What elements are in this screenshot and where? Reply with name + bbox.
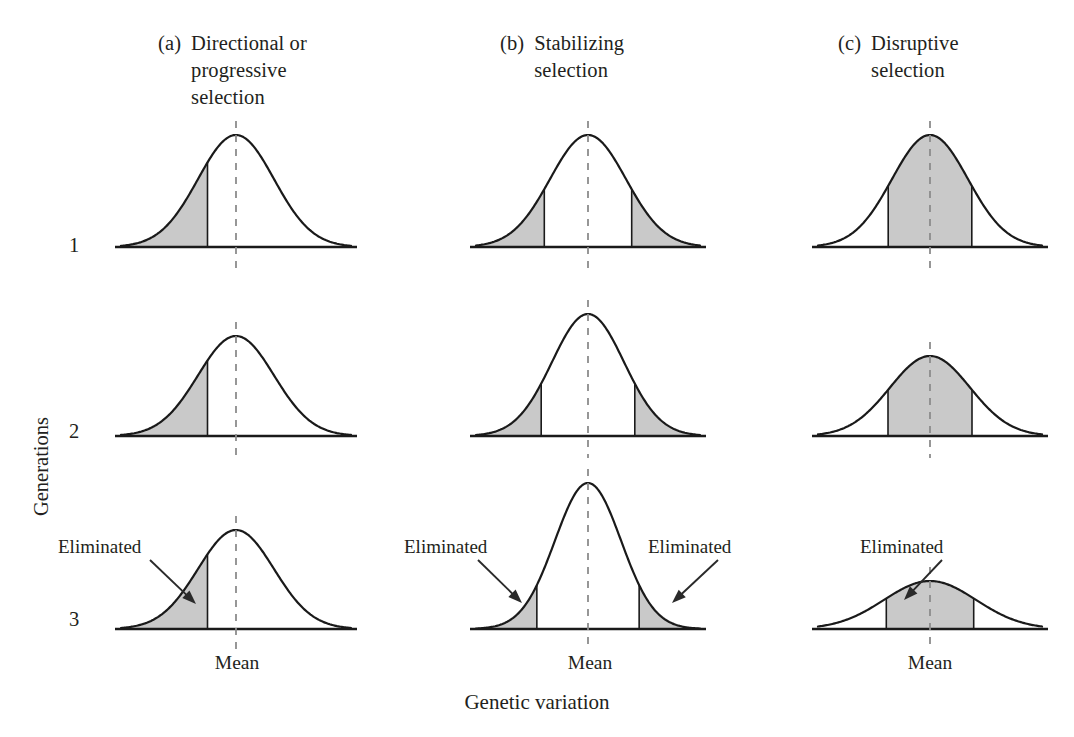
- shaded-eliminated-area: [635, 384, 693, 436]
- shaded-eliminated-area: [130, 554, 208, 629]
- shaded-eliminated-area: [632, 189, 695, 247]
- bell-curve: [818, 581, 1042, 627]
- shaded-eliminated-area: [484, 384, 542, 436]
- mean-label-stabilizing: Mean: [545, 652, 635, 674]
- distribution-panel: [115, 121, 357, 269]
- shaded-eliminated-area: [886, 581, 973, 629]
- shaded-eliminated-area: [486, 585, 537, 629]
- bell-curve: [476, 135, 700, 246]
- distribution-panel: [812, 567, 1048, 651]
- distribution-panel: [812, 121, 1048, 269]
- distribution-panel: [470, 121, 706, 269]
- column-heading-stabilizing-selection: (b) Stabilizing selection: [500, 30, 750, 84]
- shaded-eliminated-area: [130, 162, 208, 247]
- column-tag-c: (c): [838, 30, 861, 57]
- natural-selection-figure: (a) Directional or progressive selection…: [0, 0, 1074, 737]
- column-tag-a: (a): [158, 30, 181, 57]
- eliminated-label-stabilizing-left: Eliminated: [404, 536, 487, 558]
- shaded-eliminated-area: [888, 356, 972, 436]
- eliminated-arrow: [150, 560, 196, 604]
- distribution-panel: [470, 300, 706, 458]
- arrow-head: [508, 590, 522, 604]
- mean-label-disruptive: Mean: [885, 652, 975, 674]
- distribution-panel: [115, 516, 357, 651]
- column-title-b: Stabilizing selection: [534, 30, 750, 84]
- column-heading-directional-selection: (a) Directional or progressive selection: [158, 30, 408, 111]
- shaded-eliminated-area: [482, 189, 545, 247]
- distribution-panel: [115, 322, 357, 458]
- generation-number-1: 1: [62, 234, 86, 257]
- bell-curve: [476, 314, 700, 435]
- eliminated-label-disruptive: Eliminated: [860, 536, 943, 558]
- mean-label-directional: Mean: [192, 652, 282, 674]
- arrow-head: [672, 590, 686, 603]
- x-axis-label: Genetic variation: [0, 690, 1074, 715]
- distribution-panel: [470, 469, 706, 651]
- generation-number-2: 2: [62, 420, 86, 443]
- shaded-eliminated-area: [639, 585, 690, 629]
- generation-number-3: 3: [62, 608, 86, 631]
- eliminated-arrow: [478, 560, 522, 603]
- bell-curve: [121, 135, 351, 246]
- column-heading-disruptive-selection: (c) Disruptive selection: [838, 30, 1073, 84]
- distribution-panel: [812, 342, 1048, 458]
- arrow-shaft: [912, 560, 942, 592]
- column-title-a: Directional or progressive selection: [191, 30, 408, 111]
- shaded-eliminated-area: [888, 135, 972, 247]
- bell-curve: [818, 135, 1042, 246]
- arrow-shaft: [150, 560, 188, 596]
- bell-curve: [121, 530, 351, 628]
- bell-curve: [121, 336, 351, 435]
- y-axis-label: Generations: [30, 382, 53, 552]
- bell-curve: [818, 356, 1042, 434]
- shaded-eliminated-area: [130, 361, 208, 436]
- column-tag-b: (b): [500, 30, 524, 57]
- arrow-shaft: [478, 560, 514, 595]
- arrow-head: [182, 591, 196, 604]
- eliminated-label-directional: Eliminated: [58, 536, 141, 558]
- column-title-c: Disruptive selection: [871, 30, 1073, 84]
- arrow-shaft: [680, 560, 718, 595]
- eliminated-arrow: [904, 560, 942, 600]
- eliminated-arrow: [672, 560, 718, 603]
- arrow-head: [904, 586, 917, 600]
- eliminated-label-stabilizing-right: Eliminated: [648, 536, 731, 558]
